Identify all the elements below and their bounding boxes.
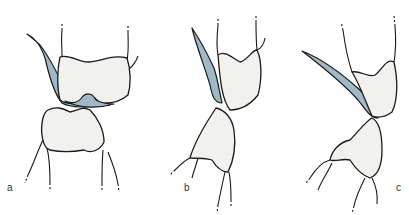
diagram-canvas (0, 0, 409, 215)
panel-a (25, 22, 138, 192)
panel-label-a: a (7, 182, 13, 193)
lower-crown-c (330, 118, 382, 178)
panel-c (302, 15, 397, 213)
upper-root-right (127, 32, 128, 60)
panel-label-c: c (396, 182, 401, 193)
upper-crown-b (218, 50, 261, 110)
lower-crown-a (42, 108, 104, 152)
panel-label-b: b (184, 182, 190, 193)
